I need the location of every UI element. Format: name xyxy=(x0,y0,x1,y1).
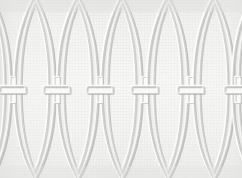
relief-pattern-svg xyxy=(0,0,242,178)
grain-overlay xyxy=(0,0,242,178)
relief-texture-image: Low-contrast white embossed texture show… xyxy=(0,0,242,178)
